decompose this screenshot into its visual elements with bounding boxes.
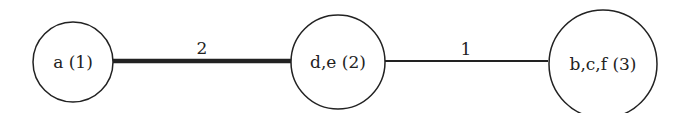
edge-weight-label: 2 [197, 38, 208, 58]
node-bcf: b,c,f (3) [549, 10, 657, 113]
node-label: a (1) [53, 52, 93, 72]
node-de: d,e (2) [291, 15, 385, 109]
node-label: b,c,f (3) [570, 54, 637, 74]
edge-de-bcf: 1 [385, 39, 548, 61]
node-a: a (1) [33, 22, 113, 102]
node-label: d,e (2) [310, 52, 366, 72]
edge-a-de: 2 [113, 38, 291, 61]
graph-diagram: 2 1 a (1) d,e (2) b,c,f (3) [0, 0, 690, 113]
edge-weight-label: 1 [461, 39, 472, 59]
